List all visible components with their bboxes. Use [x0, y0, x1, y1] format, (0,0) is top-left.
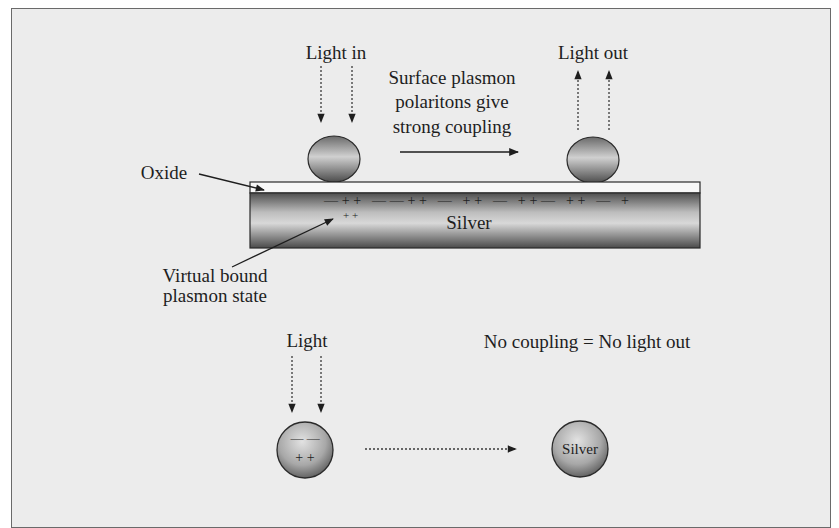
oxide-label: Oxide: [141, 162, 187, 183]
caption-line-3: strong coupling: [393, 116, 512, 137]
light-out-label: Light out: [558, 42, 629, 63]
top-panel: Light in Surface plasmon polaritons give…: [141, 42, 700, 306]
light-out-arrows: [578, 71, 609, 130]
particle-negative-charges: — —: [289, 430, 320, 445]
oxide-layer: [250, 182, 700, 193]
coupling-caption: Surface plasmon polaritons give strong c…: [388, 67, 516, 137]
virtual-state-label-line-1: Virtual bound: [163, 265, 268, 286]
light-label: Light: [286, 330, 328, 351]
silver-nanoparticle-label: Silver: [562, 441, 598, 457]
particle-positive-charges: + +: [295, 450, 314, 465]
silver-film-label: Silver: [446, 212, 492, 233]
bottom-panel: Light — — + + No coupling = No light out…: [277, 330, 691, 478]
output-nanoparticle: [567, 137, 619, 183]
input-nanoparticle: [308, 136, 360, 182]
light-arrows: [292, 356, 321, 412]
light-in-label: Light in: [306, 42, 367, 63]
bound-charges: + +: [343, 209, 358, 221]
no-coupling-label: No coupling = No light out: [484, 331, 691, 352]
virtual-state-label-line-2: plasmon state: [163, 285, 267, 306]
caption-line-2: polaritons give: [395, 91, 508, 112]
light-in-arrows: [321, 66, 352, 122]
caption-line-1: Surface plasmon: [388, 67, 516, 88]
